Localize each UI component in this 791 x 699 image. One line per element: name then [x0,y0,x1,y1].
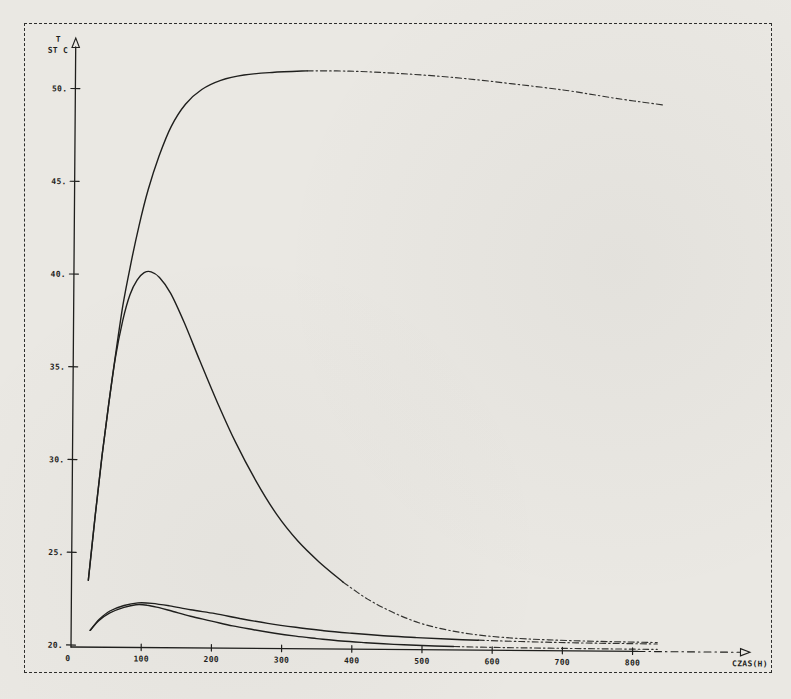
x-tick-label: 300 [274,656,289,665]
x-axis-arrowhead-icon [740,649,750,656]
y-tick-label: 45. [51,177,66,186]
series-heating-curve-peak-40C-faded [343,582,658,642]
y-tick-label: 30. [49,455,64,464]
series-low-curve-fast-decay-faded [454,647,658,650]
x-tick-label: 100 [133,654,148,663]
plot-generated-content: 20.25.30.35.40.45.50.0100200300400500600… [48,38,755,668]
y-tick-label: 50. [52,84,67,93]
x-tick-label: 700 [555,658,570,667]
y-axis-title-line2: ST C [48,46,69,55]
y-axis-arrowhead-icon [72,38,79,48]
x-axis-title: CZAS(H) [732,659,768,668]
x-tick-label: 800 [625,658,640,667]
scanned-chart-page: 20.25.30.35.40.45.50.0100200300400500600… [0,0,791,699]
series-heating-curve-plateau-51C-faded [307,71,665,106]
y-axis-title-line1: T [56,35,61,44]
x-tick-label: 200 [204,655,219,664]
x-tick-label: 600 [484,657,499,666]
x-tick-label: 500 [414,657,429,666]
temperature-time-plot: 20.25.30.35.40.45.50.0100200300400500600… [0,0,791,699]
x-tick-label: 0 [65,654,70,663]
y-tick-label: 35. [50,363,65,372]
x-tick-label: 400 [344,656,359,665]
y-axis-line [71,47,76,647]
y-tick-label: 25. [48,548,63,557]
y-tick-label: 20. [48,641,63,650]
y-tick-label: 40. [51,270,66,279]
series-low-curve-fast-decay [90,604,454,646]
series-heating-curve-peak-40C [88,271,345,582]
x-axis-line-faded [638,651,740,652]
